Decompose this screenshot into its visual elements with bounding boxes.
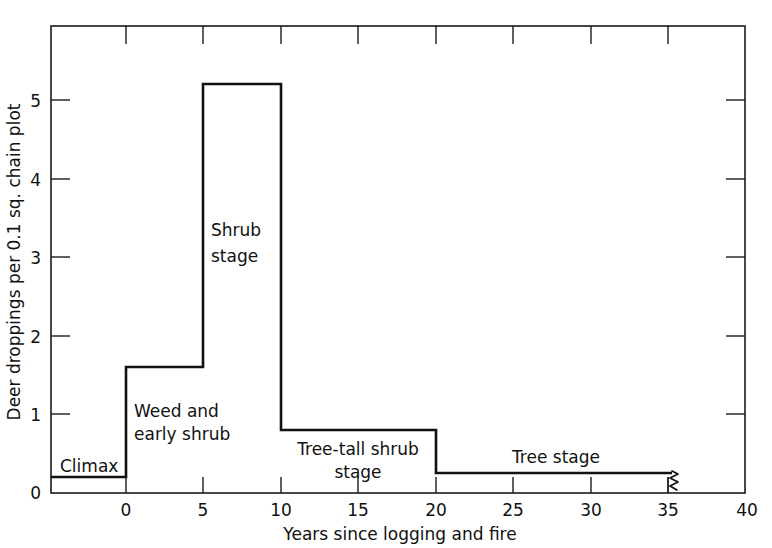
chart-page: 0 5 10 15 20 25 30 35 40 0 1 2 3 4 5 Yea… <box>0 0 772 548</box>
x-axis-ticks <box>126 477 668 493</box>
y-tick-label-0: 0 <box>30 483 41 503</box>
stage-label-tree-tall-line1: Tree-tall shrub <box>296 439 419 459</box>
stage-label-climax: Climax <box>60 456 118 476</box>
stage-label-tree-stage: Tree stage <box>511 447 600 467</box>
stage-label-tree-tall-line2: stage <box>334 462 381 482</box>
x-axis-ticks-top <box>126 26 668 44</box>
y-axis-ticks-right <box>726 100 745 414</box>
y-tick-label-3: 3 <box>30 248 41 268</box>
x-tick-label-30: 30 <box>580 500 602 520</box>
stage-label-shrub-line1: Shrub <box>211 220 261 240</box>
x-tick-label-35: 35 <box>657 500 679 520</box>
y-axis-title: Deer droppings per 0.1 sq. chain plot <box>4 103 24 420</box>
y-axis-ticks-left <box>51 100 70 414</box>
stage-label-weed-line1: Weed and <box>134 401 219 421</box>
y-tick-label-5: 5 <box>30 91 41 111</box>
x-tick-label-5: 5 <box>198 500 209 520</box>
stage-label-weed-line2: early shrub <box>134 424 230 444</box>
x-tick-label-25: 25 <box>502 500 524 520</box>
x-tick-label-20: 20 <box>425 500 447 520</box>
x-tick-label-40: 40 <box>736 500 758 520</box>
x-axis-title: Years since logging and fire <box>282 524 516 544</box>
x-tick-label-0: 0 <box>121 500 132 520</box>
x-tick-label-10: 10 <box>270 500 292 520</box>
y-tick-label-1: 1 <box>30 405 41 425</box>
x-tick-label-15: 15 <box>347 500 369 520</box>
deer-droppings-step-chart: 0 5 10 15 20 25 30 35 40 0 1 2 3 4 5 Yea… <box>0 0 772 548</box>
stage-label-shrub-line2: stage <box>211 246 258 266</box>
plot-frame <box>51 26 745 493</box>
y-tick-label-4: 4 <box>30 170 41 190</box>
y-tick-label-2: 2 <box>30 327 41 347</box>
